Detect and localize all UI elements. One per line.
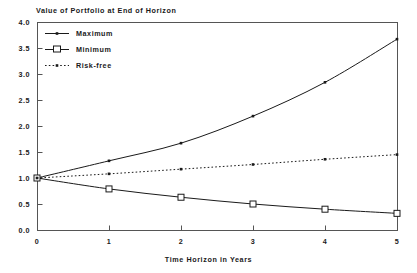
y-axis-tick-label: 4.0 — [2, 18, 30, 27]
legend-item-label: Risk-free — [76, 61, 112, 70]
x-axis-tick-label: 0 — [27, 237, 47, 246]
series-line-maximum — [37, 39, 397, 178]
data-point-marker — [250, 201, 256, 207]
data-point-marker — [396, 38, 399, 41]
data-point-marker — [252, 115, 255, 118]
chart-plot-area — [0, 0, 417, 273]
figure-container: Value of Portfolio at End of Horizon 0.0… — [0, 0, 417, 273]
y-axis-tick-label: 2.0 — [2, 122, 30, 131]
data-point-marker — [396, 153, 399, 156]
data-point-marker — [108, 160, 111, 163]
legend-marker-sample — [56, 32, 59, 35]
y-axis-tick-label: 0.0 — [2, 226, 30, 235]
x-axis-label: Time Horizon in Years — [0, 255, 417, 264]
data-point-marker — [180, 168, 183, 171]
x-axis-tick-label: 5 — [387, 237, 407, 246]
y-axis-tick-label: 1.5 — [2, 148, 30, 157]
series-line-risk-free — [37, 155, 397, 178]
legend-marker-sample — [54, 46, 61, 52]
legend-marker-sample — [56, 64, 59, 67]
x-axis-tick-label: 4 — [315, 237, 335, 246]
data-point-marker — [108, 173, 111, 176]
x-axis-tick-label: 2 — [171, 237, 191, 246]
legend-item-label: Maximum — [76, 29, 113, 38]
data-point-marker — [322, 206, 328, 212]
data-point-marker — [106, 186, 112, 192]
x-axis-tick-label: 3 — [243, 237, 263, 246]
data-point-marker — [36, 177, 39, 180]
data-point-marker — [324, 158, 327, 161]
data-point-marker — [178, 194, 184, 200]
y-axis-tick-label: 1.0 — [2, 174, 30, 183]
data-point-marker — [394, 210, 400, 216]
figure-caption — [20, 266, 410, 273]
y-axis-tick-label: 3.5 — [2, 44, 30, 53]
series-line-minimum — [37, 178, 397, 213]
data-point-marker — [324, 81, 327, 84]
data-point-marker — [252, 163, 255, 166]
data-point-marker — [180, 142, 183, 145]
x-axis-tick-label: 1 — [99, 237, 119, 246]
y-axis-tick-label: 0.5 — [2, 200, 30, 209]
y-axis-tick-label: 2.5 — [2, 96, 30, 105]
legend-item-label: Minimum — [76, 45, 111, 54]
y-axis-tick-label: 3.0 — [2, 70, 30, 79]
